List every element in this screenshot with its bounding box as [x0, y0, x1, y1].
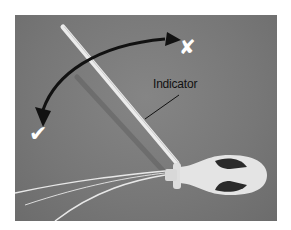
photo-illustration: [15, 15, 277, 221]
device-photo: Indicator ✔ ✘: [15, 15, 277, 221]
indicator-label: Indicator: [153, 77, 197, 91]
correct-check-icon: ✔: [29, 121, 47, 146]
incorrect-cross-icon: ✘: [179, 35, 196, 59]
